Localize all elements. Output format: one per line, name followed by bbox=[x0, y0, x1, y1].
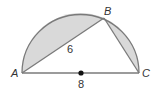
length-label-ac: 8 bbox=[78, 78, 84, 90]
semicircle-diagram: A B C 6 8 bbox=[0, 0, 153, 93]
point-label-a: A bbox=[10, 67, 18, 79]
chord-bc bbox=[104, 18, 139, 73]
center-point bbox=[78, 70, 83, 75]
point-label-c: C bbox=[142, 67, 150, 79]
point-label-b: B bbox=[104, 5, 111, 17]
length-label-ab: 6 bbox=[67, 43, 73, 55]
